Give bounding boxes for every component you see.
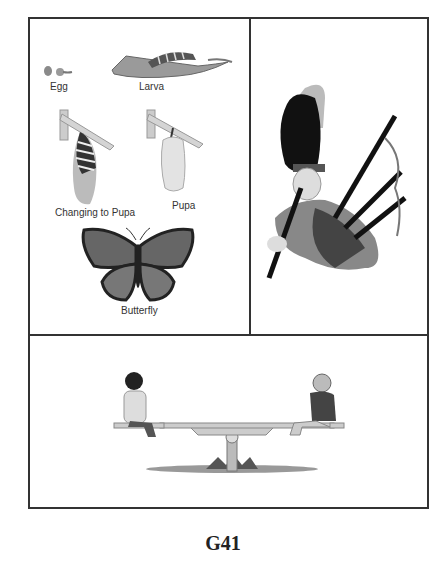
egg-label: Egg (50, 81, 68, 92)
pupa-illustration (145, 108, 205, 198)
seesaw-illustration (110, 365, 350, 480)
page-code: G41 (0, 532, 446, 555)
panel-divider-horizontal (28, 334, 429, 336)
bagpiper-illustration (265, 68, 415, 288)
pupa-label: Pupa (172, 200, 195, 211)
changing-to-pupa-label: Changing to Pupa (55, 207, 135, 218)
changing-pupa-illustration (56, 108, 116, 208)
butterfly-label: Butterfly (121, 305, 158, 316)
panel-divider-vertical (249, 17, 251, 335)
larva-label: Larva (139, 81, 164, 92)
butterfly-illustration (80, 226, 196, 306)
larva-illustration (108, 44, 238, 84)
